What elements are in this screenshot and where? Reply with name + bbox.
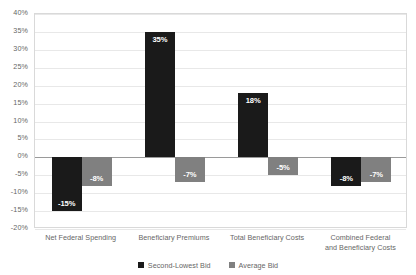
y-axis-tick-label: 15% [13,99,28,107]
legend-item[interactable]: Second-Lowest Bid [138,261,211,270]
gridline [35,32,406,33]
chart-legend: Second-Lowest BidAverage Bid [0,259,416,271]
x-axis-category-label: Net Federal Spending [34,233,127,243]
x-axis-category-label: Total Beneficiary Costs [221,233,314,243]
bar-value-label: -5% [268,163,298,172]
y-axis-tick-label: -20% [11,224,28,232]
y-axis-tick-label: 0% [17,152,28,160]
x-axis-category-label: Combined Federal and Beneficiary Costs [314,233,407,252]
gridline [35,68,406,69]
gridline [35,104,406,105]
gridline [35,193,406,194]
y-axis: 40%35%30%25%20%15%10%5%0%-5%-10%-15%-20% [0,13,32,228]
bar-value-label: -7% [361,170,391,179]
bar-value-label: -15% [52,199,82,208]
gridline [35,50,406,51]
bar-value-label: -8% [331,174,361,183]
plot-area: -15%-8%35%-7%18%-5%-8%-7% [34,13,407,228]
y-axis-tick-label: -5% [15,170,28,178]
y-axis-tick-label: 25% [13,63,28,71]
gridline [35,211,406,212]
y-axis-tick-label: -15% [11,206,28,214]
legend-swatch-icon [138,262,144,268]
gridline [35,122,406,123]
bar-chart: 40%35%30%25%20%15%10%5%0%-5%-10%-15%-20%… [0,0,416,275]
legend-swatch-icon [229,262,235,268]
gridline [35,139,406,140]
legend-label: Average Bid [239,261,279,270]
y-axis-tick-label: -10% [11,188,28,196]
y-axis-tick-label: 30% [13,45,28,53]
bar-value-label: 18% [238,96,268,105]
y-axis-tick-label: 10% [13,117,28,125]
bar-value-label: -7% [175,170,205,179]
y-axis-tick-label: 20% [13,81,28,89]
bar [145,32,175,157]
gridline [35,14,406,15]
y-axis-tick-label: 40% [13,9,28,17]
gridline [35,86,406,87]
x-axis-category-label: Beneficiary Premiums [127,233,220,243]
bar-value-label: 35% [145,35,175,44]
gridline [35,229,406,230]
legend-label: Second-Lowest Bid [148,261,211,270]
bar-value-label: -8% [82,174,112,183]
y-axis-tick-label: 35% [13,27,28,35]
legend-item[interactable]: Average Bid [229,261,279,270]
y-axis-tick-label: 5% [17,134,28,142]
